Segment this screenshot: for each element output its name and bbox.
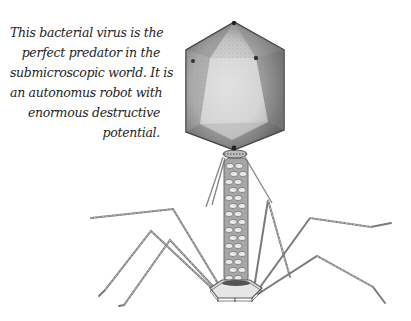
capsid-head <box>186 21 284 151</box>
bacteriophage-illustration <box>0 0 411 321</box>
tail-sheath <box>224 158 248 284</box>
baseplate <box>210 280 262 302</box>
collar <box>223 150 247 158</box>
